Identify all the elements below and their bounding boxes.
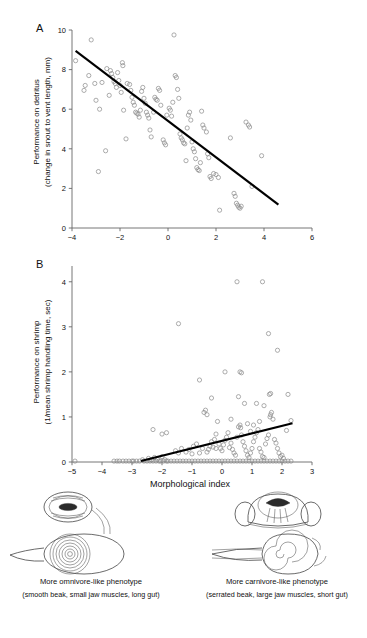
data-point [178,132,182,136]
data-point [142,96,146,100]
data-point [141,85,145,89]
data-point [155,98,159,102]
data-point [83,83,87,87]
data-point [89,38,93,42]
data-point [176,322,180,326]
data-point [239,371,243,375]
data-point [197,451,201,455]
data-point [194,157,198,161]
data-point [184,159,188,163]
data-point [165,113,169,117]
y-tick-label: 6 [62,105,66,114]
data-point [87,73,91,77]
carnivore-oral-disc-icon [235,492,321,528]
data-point [236,395,240,399]
data-point [251,423,255,427]
y-tick-label: 2 [62,368,66,377]
data-point [74,59,78,63]
data-points-group [73,280,293,464]
data-point [200,109,204,113]
data-point [138,108,142,112]
data-point [119,90,123,94]
panel-a-scatter-plot: −4−202460246810 [0,14,367,246]
data-point [266,433,270,437]
data-point [248,451,252,455]
x-tick-label: −4 [68,233,77,242]
data-point [183,142,187,146]
data-point [160,432,164,436]
data-point [172,33,176,37]
data-point [254,401,258,405]
panel-a-svg: −4−202460246810 [0,14,367,246]
x-tick-label: −4 [98,467,107,476]
data-point [148,128,152,132]
data-point [216,175,220,179]
data-point [229,417,233,421]
data-point [194,442,198,446]
data-point [229,441,233,445]
data-point [269,391,273,395]
data-point [140,89,144,93]
panel-b-svg: −5−4−3−2−1012301234 [0,250,367,482]
data-point [262,404,266,408]
x-tick-label: −1 [188,467,197,476]
morph-omnivore-art [6,488,176,576]
data-point [218,208,222,212]
data-point [96,169,100,173]
data-point [107,93,111,97]
carnivore-tadpole-drawing [192,488,362,576]
data-point [185,126,189,130]
data-point [207,156,211,160]
data-point [121,64,125,68]
data-point [275,348,279,352]
data-point [116,70,120,74]
data-point [189,118,193,122]
data-point [266,331,270,335]
data-point [205,413,209,417]
data-point [289,459,293,463]
morph-carnivore-art [192,488,362,576]
data-point [241,440,245,444]
data-point [250,446,254,450]
x-tick-label: 2 [214,233,218,242]
data-point [253,435,257,439]
data-point [122,108,126,112]
data-point [82,88,86,92]
data-point [257,419,261,423]
figure-root: A B Performance on detritus (change in s… [0,0,367,638]
x-tick-label: 2 [280,467,284,476]
data-point [235,280,239,284]
data-point [93,81,97,85]
data-point [286,392,290,396]
panel-b-scatter-plot: −5−4−3−2−1012301234 [0,250,367,482]
data-point [176,87,180,91]
x-tick-label: 0 [166,233,170,242]
y-tick-label: 0 [62,224,66,233]
data-point [289,418,293,422]
data-point [212,437,216,441]
morph-omnivore-caption-main: More omnivore-like phenotype [6,577,176,586]
y-tick-label: 8 [62,65,66,74]
data-point [274,441,278,445]
data-point [73,459,77,463]
morph-illustrations: More omnivore-like phenotype (smooth bea… [0,488,367,638]
data-point [275,446,279,450]
data-point [284,428,288,432]
data-point [271,417,275,421]
data-point [164,431,168,435]
data-point [242,401,246,405]
x-tick-label: −5 [68,467,77,476]
data-point [98,107,102,111]
y-tick-label: 3 [62,323,66,332]
x-tick-label: −2 [158,467,167,476]
x-tick-label: 6 [310,233,314,242]
data-point [259,450,263,454]
y-tick-label: 0 [62,458,66,467]
data-point [170,114,174,118]
data-point [159,103,163,107]
x-tick-label: 0 [220,467,224,476]
data-point [104,149,108,153]
data-point [244,449,248,453]
morph-carnivore-caption-main: More carnivore-like phenotype [192,577,362,586]
data-point [223,370,227,374]
